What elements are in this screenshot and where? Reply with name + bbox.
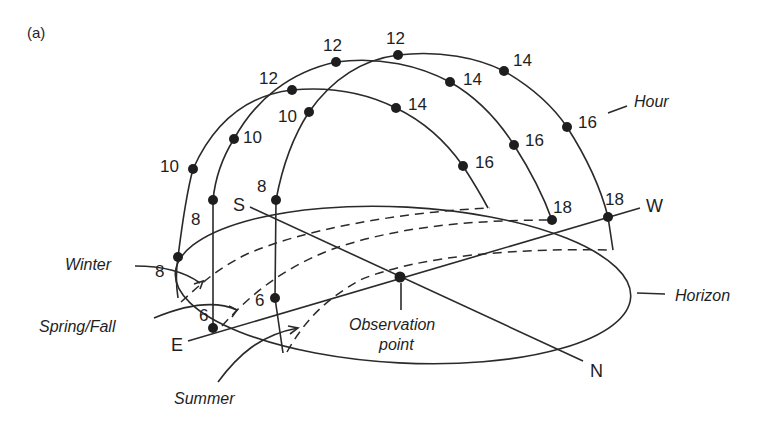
east-label: E — [171, 335, 183, 355]
summer-hour-16-label: 16 — [578, 113, 597, 132]
summer-hour-markers: 6 8 10 12 14 16 18 — [255, 29, 624, 310]
summer-hour-12-label: 12 — [386, 29, 405, 48]
winter-hour-14-dot — [391, 103, 401, 113]
summer-hour-10-label: 10 — [278, 107, 297, 126]
summer-hour-6-dot — [270, 293, 280, 303]
summer-hour-18-label: 18 — [605, 190, 624, 209]
summer-dashed-path — [287, 250, 613, 352]
summer-hour-14-label: 14 — [513, 51, 532, 70]
observation-label-line2: point — [378, 336, 414, 353]
spring-fall-hour-14-dot — [445, 77, 455, 87]
winter-label: Winter — [65, 256, 112, 273]
south-label: S — [233, 195, 245, 215]
spring-fall-hour-10-dot — [229, 134, 239, 144]
hour-leader — [608, 106, 627, 113]
spring-fall-hour-6-dot — [208, 323, 218, 333]
summer-hour-6-label: 6 — [255, 291, 264, 310]
winter-hour-10-label: 10 — [160, 157, 179, 176]
west-label: W — [646, 196, 663, 216]
summer-hour-8-label: 8 — [257, 177, 266, 196]
south-north-line — [250, 207, 583, 361]
sun-path-diagram: (a) 8 10 12 14 16 6 8 10 12 14 16 — [0, 0, 778, 437]
summer-hour-8-dot — [271, 195, 281, 205]
panel-label: (a) — [27, 24, 45, 41]
winter-leader — [135, 266, 200, 283]
winter-hour-10-dot — [188, 164, 198, 174]
winter-hour-markers: 8 10 12 14 16 — [155, 69, 494, 281]
winter-hour-16-label: 16 — [475, 153, 494, 172]
spring-fall-hour-18-label: 18 — [553, 198, 572, 217]
spring-fall-label: Spring/Fall — [39, 318, 116, 335]
spring-fall-hour-14-label: 14 — [463, 70, 482, 89]
spring-fall-hour-markers: 6 8 10 12 14 16 18 — [191, 36, 572, 333]
summer-hour-18-dot — [603, 212, 613, 222]
horizon-label: Horizon — [675, 287, 730, 304]
spring-fall-hour-16-label: 16 — [525, 131, 544, 150]
spring-fall-dashed-path — [222, 220, 552, 326]
summer-leader — [218, 328, 298, 382]
spring-fall-hour-12-label: 12 — [323, 36, 342, 55]
winter-hour-14-label: 14 — [408, 95, 427, 114]
spring-fall-hour-8-label: 8 — [191, 210, 200, 229]
winter-hour-12-label: 12 — [259, 69, 278, 88]
hour-label: Hour — [634, 93, 669, 110]
spring-fall-hour-16-dot — [509, 140, 519, 150]
winter-dashed-path — [181, 208, 490, 302]
spring-fall-hour-10-label: 10 — [243, 128, 262, 147]
spring-fall-hour-8-dot — [208, 195, 218, 205]
observation-point-dot — [395, 272, 406, 283]
winter-hour-12-dot — [287, 85, 297, 95]
winter-hour-8-label: 8 — [155, 262, 164, 281]
winter-arrowhead-icon — [194, 281, 203, 289]
summer-hour-12-dot — [393, 50, 403, 60]
winter-hour-16-dot — [458, 161, 468, 171]
horizon-leader — [637, 293, 665, 294]
north-label: N — [590, 361, 603, 381]
summer-hour-14-dot — [499, 66, 509, 76]
summer-hour-10-dot — [304, 107, 314, 117]
observation-label-line1: Observation — [349, 316, 435, 333]
spring-fall-hour-12-dot — [331, 57, 341, 67]
summer-hour-16-dot — [562, 122, 572, 132]
winter-hour-8-dot — [173, 252, 183, 262]
spring-fall-hour-6-label: 6 — [199, 306, 208, 325]
summer-label: Summer — [174, 390, 235, 407]
